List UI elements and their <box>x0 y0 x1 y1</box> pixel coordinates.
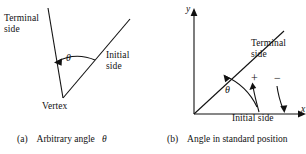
caption-b: (b) Angle in standard position <box>167 134 288 144</box>
caption-b-prefix: (b) <box>167 134 178 144</box>
negative-direction-sign: − <box>274 71 281 86</box>
negative-direction-arc <box>277 86 283 109</box>
terminal-side-ray <box>48 8 63 98</box>
x-axis-label: x <box>301 104 305 115</box>
y-axis-arrowhead <box>191 8 198 16</box>
caption-a: (a) Arbitrary angle θ <box>17 134 107 144</box>
panel-standard-position: y x Terminal side Initial side θ + − (b)… <box>153 0 306 154</box>
caption-a-symbol: θ <box>102 134 107 144</box>
panel-arbitrary-angle: Terminal side Initial side Vertex θ (a) … <box>0 0 153 154</box>
vertex-label: Vertex <box>42 101 67 112</box>
y-axis-label: y <box>186 4 190 15</box>
theta-symbol: θ <box>225 84 230 95</box>
terminal-side-label: Terminal side <box>4 13 39 34</box>
caption-a-prefix: (a) <box>17 134 28 144</box>
positive-direction-sign: + <box>251 71 258 86</box>
caption-b-text: Angle in standard position <box>187 134 288 144</box>
figure-root: Terminal side Initial side Vertex θ (a) … <box>0 0 306 154</box>
theta-symbol: θ <box>66 52 71 63</box>
initial-side-label: Initial side <box>232 113 274 124</box>
initial-side-label: Initial side <box>106 50 129 71</box>
positive-direction-arc <box>253 86 259 112</box>
terminal-side-label: Terminal side <box>251 38 286 59</box>
negative-direction-arrowhead <box>280 105 287 113</box>
panel-b-diagram <box>153 0 306 154</box>
caption-a-text: Arbitrary angle <box>37 134 95 144</box>
